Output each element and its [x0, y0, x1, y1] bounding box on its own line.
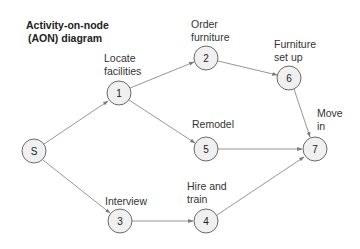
node-2: 2 [194, 46, 218, 70]
edge-4-7 [217, 157, 304, 215]
activity-labels: Locate facilities Order furniture Interv… [104, 18, 343, 207]
edge-S-1 [44, 101, 108, 144]
node-4: 4 [194, 209, 218, 233]
nodes: S 1 2 3 4 5 6 7 [22, 46, 327, 233]
label-node-2-line-2: furniture [191, 31, 230, 43]
node-S: S [22, 139, 46, 163]
node-3: 3 [108, 209, 132, 233]
node-2-label: 2 [203, 53, 209, 64]
diagram-title: Activity-on-node (AON) diagram [26, 19, 109, 44]
label-node-1-line-1: Locate [104, 52, 136, 64]
label-node-7-line-2: in [317, 120, 325, 132]
edge-1-5 [129, 100, 195, 143]
edges [43, 61, 310, 221]
label-node-7-line-1: Move [317, 107, 343, 119]
title-line-1: Activity-on-node [26, 19, 109, 31]
node-1-label: 1 [116, 88, 122, 99]
node-5: 5 [194, 137, 218, 161]
edge-2-6 [218, 61, 277, 75]
node-7-label: 7 [312, 144, 318, 155]
node-1: 1 [107, 81, 131, 105]
aon-diagram: Activity-on-node (AON) diagram Locate fa… [0, 0, 360, 249]
edge-6-7 [294, 89, 310, 137]
label-node-6-line-2: set up [274, 51, 303, 63]
label-node-4-line-1: Hire and [187, 180, 227, 192]
label-node-5-line-1: Remodel [192, 118, 234, 130]
node-6-label: 6 [286, 73, 292, 84]
label-node-4-line-2: train [187, 193, 208, 205]
title-line-2: (AON) diagram [28, 32, 102, 44]
node-3-label: 3 [117, 216, 123, 227]
node-S-label: S [31, 146, 38, 157]
label-node-2-line-1: Order [191, 18, 218, 30]
node-6: 6 [277, 66, 301, 90]
node-7: 7 [303, 137, 327, 161]
edge-S-3 [43, 160, 110, 213]
label-node-1-line-2: facilities [104, 65, 141, 77]
node-4-label: 4 [203, 216, 209, 227]
label-node-3-line-1: Interview [105, 195, 147, 207]
label-node-6-line-1: Furniture [274, 38, 316, 50]
node-5-label: 5 [203, 144, 209, 155]
